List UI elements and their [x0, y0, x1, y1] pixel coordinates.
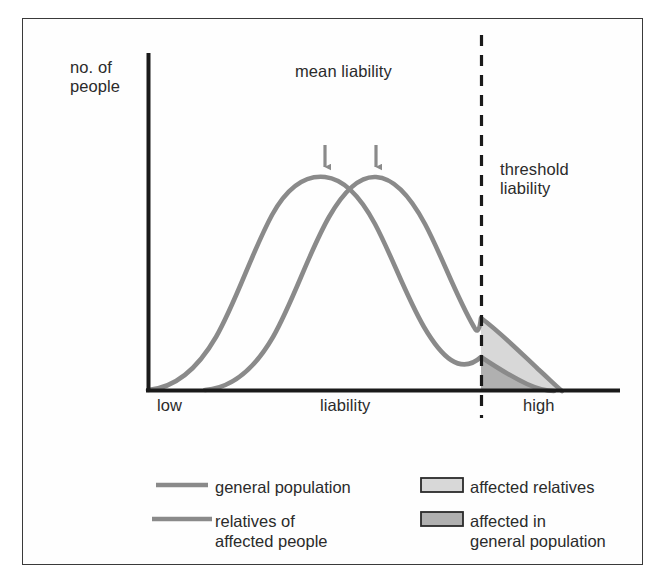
x-axis-tick-high: high	[523, 396, 555, 415]
figure-container: no. of people mean liability threshold l…	[0, 0, 661, 585]
mean-liability-annotation: mean liability	[295, 62, 392, 81]
legend-label-relatives-of-affected-people: relatives of affected people	[215, 511, 328, 551]
x-axis-tick-low: low	[157, 396, 182, 415]
y-axis-label: no. of people	[70, 58, 120, 97]
x-axis-label: liability	[320, 396, 370, 415]
legend-label-affected-in-general-population: affected in general population	[470, 511, 606, 551]
legend-label-affected-relatives: affected relatives	[470, 477, 594, 497]
threshold-liability-annotation: threshold liability	[500, 160, 569, 199]
legend-label-general-population: general population	[215, 477, 351, 497]
legend-swatch-affected-relatives	[421, 478, 463, 492]
legend-swatch-affected-general-population	[421, 512, 463, 526]
